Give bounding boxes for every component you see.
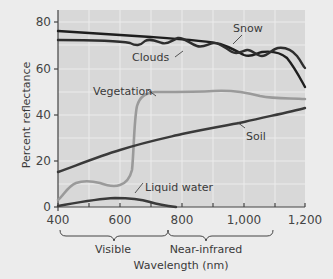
x-axis-title: Wavelength (nm): [133, 259, 228, 272]
chart-frame: 80 60 40 20 0 400 600 800 1,000 1,200 Pe…: [0, 0, 333, 279]
x-tick-600: 600: [109, 213, 132, 227]
snow-label: Snow: [233, 22, 263, 35]
y-tick-60: 60: [36, 62, 51, 76]
near-infrared-region-label: Near-infrared: [170, 243, 243, 256]
near-infrared-brace: [168, 230, 273, 241]
y-tick-80: 80: [36, 15, 51, 29]
x-tick-1000: 1,000: [227, 213, 261, 227]
soil-label: Soil: [246, 130, 266, 143]
y-tick-40: 40: [36, 108, 51, 122]
x-tick-400: 400: [47, 213, 70, 227]
y-tick-0: 0: [43, 200, 51, 214]
x-tick-800: 800: [171, 213, 194, 227]
y-tick-labels: 80 60 40 20 0: [36, 15, 51, 214]
clouds-label: Clouds: [132, 51, 169, 64]
region-braces: [60, 230, 273, 241]
x-tick-labels: 400 600 800 1,000 1,200: [47, 213, 323, 227]
visible-region-label: Visible: [95, 243, 131, 256]
y-axis-title: Percent reflectance: [20, 62, 33, 169]
x-tick-1200: 1,200: [288, 213, 322, 227]
reflectance-chart: 80 60 40 20 0 400 600 800 1,000 1,200 Pe…: [0, 0, 333, 279]
visible-brace: [60, 230, 168, 241]
vegetation-label: Vegetation: [93, 85, 152, 98]
y-tick-20: 20: [36, 154, 51, 168]
liquid-water-label: Liquid water: [145, 181, 213, 194]
